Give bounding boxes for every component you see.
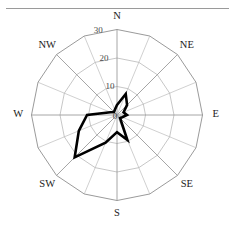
radial-tick-label-20: 20 — [100, 53, 110, 63]
compass-label-se: SE — [181, 178, 193, 189]
compass-label-ne: NE — [180, 39, 194, 50]
grid-spoke-NNW — [84, 36, 117, 115]
radial-tick-label-30: 30 — [94, 25, 104, 35]
grid-spoke-ENE — [117, 82, 196, 115]
radial-tick-label-10: 10 — [106, 81, 116, 91]
grid-spoke-NNE — [117, 36, 150, 115]
compass-label-e: E — [213, 108, 219, 119]
top-divider-rule — [6, 8, 229, 9]
wind-rose-figure: 1020300 NNEESESSWWNW — [0, 0, 235, 232]
compass-label-w: W — [13, 108, 23, 119]
compass-label-n: N — [113, 10, 121, 21]
grid-spoke-SSW — [84, 115, 117, 194]
polar-plot-svg: 1020300 NNEESESSWWNW — [0, 0, 235, 232]
data-series-polygon — [75, 94, 128, 157]
compass-label-nw: NW — [38, 39, 56, 50]
compass-label-sw: SW — [39, 178, 55, 189]
grid-spoke-SE — [117, 115, 177, 175]
grid-spoke-ESE — [117, 115, 196, 148]
grid-spoke-SW — [57, 115, 117, 175]
data-polygon-group — [75, 94, 128, 157]
compass-label-s: S — [114, 207, 120, 218]
